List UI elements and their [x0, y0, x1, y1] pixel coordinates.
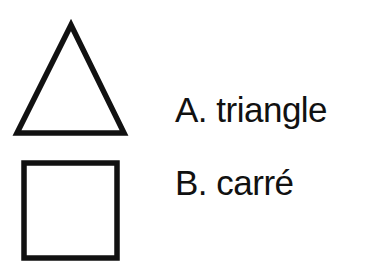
- triangle-icon: [17, 25, 124, 133]
- option-a-label: A. triangle: [175, 92, 327, 127]
- option-b-label: B. carré: [175, 165, 294, 200]
- square-icon: [24, 163, 117, 258]
- shapes-canvas: [0, 0, 382, 279]
